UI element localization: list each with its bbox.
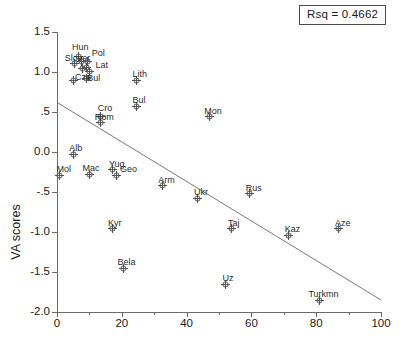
data-point-label: Bul (132, 96, 145, 105)
data-point-label: Pol (92, 49, 105, 58)
x-tick-label: 40 (167, 317, 207, 329)
x-minor-tick-mark (349, 312, 350, 315)
data-point-label: Uz (222, 274, 233, 283)
y-tick-label: -.5 (8, 185, 50, 197)
y-tick-mark (52, 112, 57, 113)
x-tick-label: 20 (102, 317, 142, 329)
y-tick-label: -1.0 (8, 225, 50, 237)
y-tick-mark (52, 232, 57, 233)
data-point-label: Rom (95, 113, 114, 122)
y-tick-mark (52, 152, 57, 153)
x-minor-tick-mark (154, 312, 155, 315)
x-tick-label: 80 (296, 317, 336, 329)
data-point-label: Slover (65, 54, 91, 63)
data-point-label: Mac (82, 164, 99, 173)
y-tick-mark (52, 32, 57, 33)
y-tick-label: 1.5 (8, 25, 50, 37)
y-tick-label: -1.5 (8, 265, 50, 277)
x-minor-tick-mark (219, 312, 220, 315)
y-tick-mark (52, 192, 57, 193)
data-point-label: Kyr (108, 219, 122, 228)
y-tick-label: 1.0 (8, 65, 50, 77)
data-point-label: Lith (132, 70, 147, 79)
x-minor-tick-mark (284, 312, 285, 315)
y-tick-label: -2.0 (8, 305, 50, 317)
data-point-label: Bela (117, 258, 135, 267)
y-tick-label: .5 (8, 105, 50, 117)
data-point-label: Aze (335, 219, 351, 228)
x-tick-label: 100 (361, 317, 401, 329)
data-point-label: Hun (72, 43, 89, 52)
data-point-label: Bul (87, 74, 100, 83)
x-minor-tick-mark (89, 312, 90, 315)
data-point-label: Ukr (194, 188, 208, 197)
rsq-annotation-text: Rsq = 0.4662 (307, 8, 378, 20)
data-point-label: Alb (69, 144, 82, 153)
data-point-label: Mol (57, 165, 72, 174)
x-tick-label: 0 (37, 317, 77, 329)
scatter-plot-figure: Rsq = 0.4662 VA scores 1.51.0.50.0-.5-1.… (0, 0, 407, 352)
y-tick-label: 0.0 (8, 145, 50, 157)
data-point-label: Turkmn (308, 290, 338, 299)
y-tick-mark (52, 72, 57, 73)
y-tick-mark (52, 272, 57, 273)
data-point-label: Taj (228, 219, 240, 228)
data-point-label: Mon (204, 107, 222, 116)
data-point-label: Arm (158, 176, 175, 185)
x-tick-label: 60 (231, 317, 271, 329)
data-point-label: Kaz (285, 225, 301, 234)
data-point-label: Lat (95, 61, 108, 70)
data-point-label: Rus (246, 184, 262, 193)
data-point-label: Geo (120, 165, 137, 174)
rsq-annotation-box: Rsq = 0.4662 (299, 5, 386, 25)
